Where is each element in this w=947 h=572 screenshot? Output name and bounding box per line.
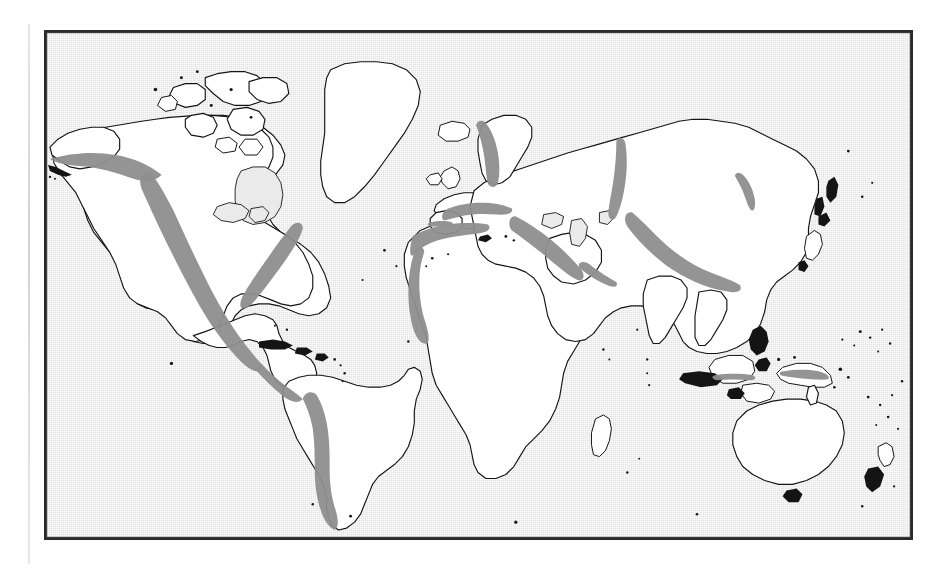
world-map-figure <box>44 30 913 540</box>
page-gutter-line <box>28 24 30 564</box>
island-madagascar <box>591 415 611 457</box>
landmass-australia <box>733 385 844 502</box>
map-page <box>0 0 947 572</box>
island-new-zealand <box>864 443 894 493</box>
world-map-svg <box>46 32 911 538</box>
landmass-south-america <box>283 367 422 530</box>
orogen-sunda-arc <box>712 374 755 380</box>
landmass-greenland <box>321 62 421 203</box>
island-iceland <box>438 121 470 141</box>
